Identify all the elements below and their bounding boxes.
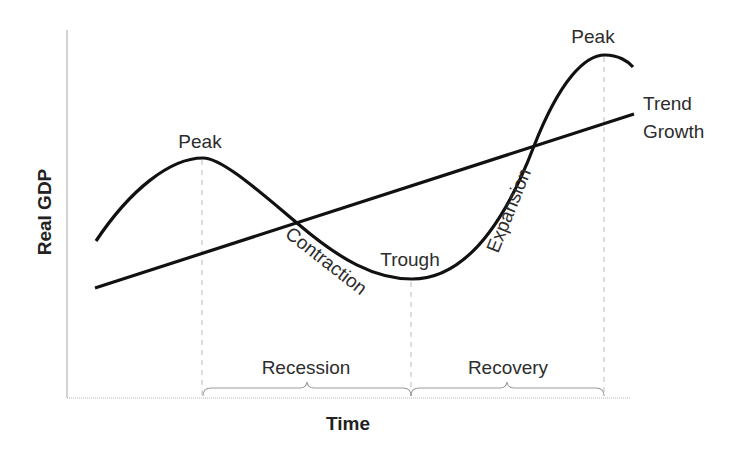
business-cycle-curve bbox=[96, 55, 633, 279]
recovery-bracket bbox=[411, 382, 604, 396]
trend-label-line2: Growth bbox=[643, 121, 704, 142]
peak2-label: Peak bbox=[571, 26, 615, 47]
peak1-label: Peak bbox=[178, 131, 222, 152]
recession-label: Recession bbox=[262, 357, 351, 378]
trend-growth-line bbox=[95, 114, 634, 288]
expansion-label: Expansion bbox=[482, 165, 535, 255]
trough-label: Trough bbox=[380, 249, 440, 270]
y-axis-title: Real GDP bbox=[34, 168, 55, 255]
recovery-label: Recovery bbox=[468, 357, 549, 378]
contraction-label: Contraction bbox=[282, 223, 372, 299]
business-cycle-diagram: Peak Peak Trough Contraction Expansion T… bbox=[0, 0, 739, 453]
recession-bracket bbox=[203, 382, 411, 396]
trend-label-line1: Trend bbox=[643, 93, 692, 114]
x-axis-title: Time bbox=[326, 413, 370, 434]
